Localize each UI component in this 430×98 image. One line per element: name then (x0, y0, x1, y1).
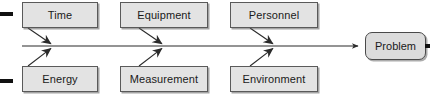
effect-box-problem[interactable]: Problem (365, 32, 426, 60)
effect-label: Problem (375, 40, 416, 52)
category-label-environment: Environment (243, 73, 306, 85)
bottom-left-edge-mark (0, 79, 13, 83)
category-label-energy: Energy (42, 73, 77, 85)
fishbone-diagram: Time Equipment Personnel Energy Measurem… (0, 0, 430, 98)
branch-line-measurement (139, 48, 162, 66)
category-label-personnel: Personnel (249, 9, 299, 21)
category-box-measurement[interactable]: Measurement (120, 66, 208, 92)
category-label-equipment: Equipment (137, 9, 191, 21)
category-box-personnel[interactable]: Personnel (230, 2, 318, 28)
right-edge-mark (425, 44, 430, 48)
branch-line-energy (28, 48, 51, 66)
branch-line-time (28, 28, 51, 44)
top-left-edge-mark (0, 12, 13, 16)
category-label-measurement: Measurement (130, 73, 198, 85)
category-box-environment[interactable]: Environment (230, 66, 318, 92)
category-box-equipment[interactable]: Equipment (120, 2, 208, 28)
branch-line-environment (250, 48, 273, 66)
category-box-time[interactable]: Time (22, 2, 98, 28)
category-box-energy[interactable]: Energy (22, 66, 98, 92)
branch-line-equipment (139, 28, 162, 44)
branch-line-personnel (250, 28, 273, 44)
category-label-time: Time (48, 9, 72, 21)
